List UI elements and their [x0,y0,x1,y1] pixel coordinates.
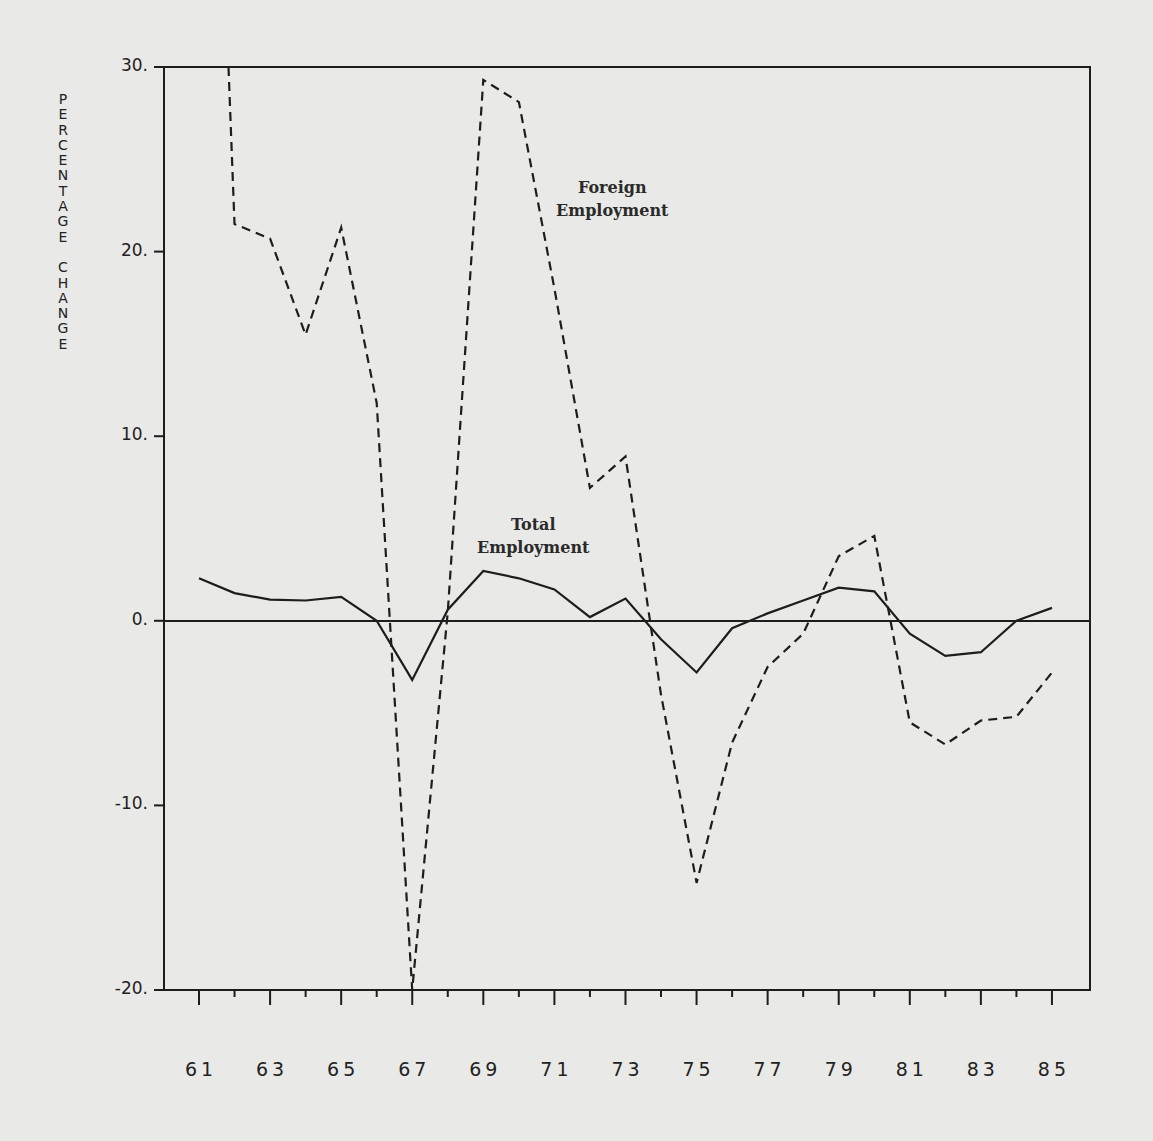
y-axis-title-letter: P [56,92,70,107]
x-tick-label: 69 [455,1058,515,1080]
y-axis-title-letter: G [56,214,70,229]
x-tick-label: 79 [811,1058,871,1080]
x-tick-label: 73 [597,1058,657,1080]
x-tick-label: 75 [669,1058,729,1080]
x-tick-label: 83 [953,1058,1013,1080]
y-axis-title: PERCENTAGE CHANGE [56,92,70,352]
y-axis-title-letter: T [56,184,70,199]
y-axis-title-letter: E [56,153,70,168]
annotation-total-employment: Total Employment [477,513,590,559]
y-axis-title-letter: H [56,276,70,291]
y-tick-label: 10. [88,424,148,444]
y-axis-title-letter: E [56,337,70,352]
y-tick-label: 30. [88,55,148,75]
x-tick-label: 63 [242,1058,302,1080]
y-axis-title-letter: E [56,107,70,122]
chart-plot-area [0,0,1153,1141]
series-total-employment [199,571,1052,680]
x-tick-label: 81 [882,1058,942,1080]
y-axis-title-letter: A [56,199,70,214]
x-tick-label: 67 [384,1058,444,1080]
y-axis-title-letter: E [56,230,70,245]
y-axis-title-letter: C [56,138,70,153]
x-tick-label: 71 [526,1058,586,1080]
y-tick-label: 20. [88,240,148,260]
y-axis-title-letter [56,245,70,260]
x-tick-label: 65 [313,1058,373,1080]
x-tick-label: 77 [740,1058,800,1080]
y-axis-title-letter: A [56,291,70,306]
y-axis-title-letter: C [56,260,70,275]
x-tick-label: 61 [171,1058,231,1080]
y-axis-title-letter: N [56,306,70,321]
x-tick-label: 85 [1024,1058,1084,1080]
y-axis-title-letter: G [56,321,70,336]
y-axis-title-letter: R [56,123,70,138]
y-axis-title-letter: N [56,168,70,183]
annotation-foreign-employment: Foreign Employment [556,176,669,222]
y-tick-label: 0. [88,609,148,629]
y-tick-label: -20. [88,978,148,998]
y-tick-label: -10. [88,793,148,813]
